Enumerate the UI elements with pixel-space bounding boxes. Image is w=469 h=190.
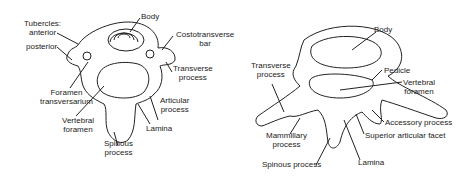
label-transverse-process-right: Transverse process <box>251 61 291 79</box>
label-vertebral-foramen-right: Vertebral foramen <box>403 78 435 96</box>
label-spinous-process-right: Spinous process <box>262 160 321 169</box>
label-body-left: Body <box>141 12 159 21</box>
label-transverse-process-left: Transverse process <box>173 64 213 82</box>
label-posterior-tubercle: posterior <box>26 42 57 51</box>
label-accessory-process: Accessory process <box>385 118 452 127</box>
label-mammillary-process: Mammillary process <box>266 131 307 149</box>
label-lamina-right: Lamina <box>358 158 384 167</box>
label-costotransverse-bar: Costotransverse bar <box>176 30 234 48</box>
label-vertebral-foramen-left: Vertebral foramen <box>62 116 94 134</box>
label-articular-process: Articular process <box>160 96 189 114</box>
label-body-right: Body <box>374 25 392 34</box>
label-spinous-process-left: Spinous process <box>104 139 133 157</box>
label-superior-articular-facet: Superior articular facet <box>365 131 445 140</box>
label-lamina-left: Lamina <box>146 124 172 133</box>
label-anterior-tubercle: anterior <box>29 28 56 37</box>
label-pedicle: Pedicle <box>384 66 410 75</box>
label-tubercles: Tubercles: <box>24 19 61 28</box>
label-foramen-transversarium: Foramen transversarium <box>40 88 93 106</box>
